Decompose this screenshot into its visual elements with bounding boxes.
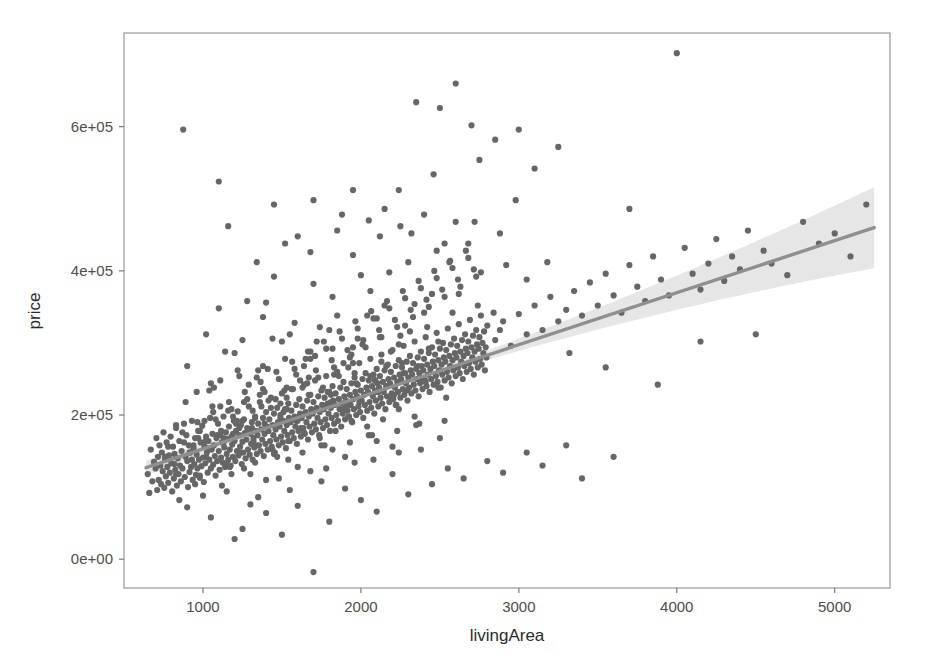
- scatter-point: [304, 398, 310, 404]
- scatter-point: [431, 268, 437, 274]
- chart-canvas: 10002000300040005000 0e+002e+054e+056e+0…: [0, 0, 942, 671]
- scatter-point: [239, 337, 245, 343]
- scatter-point: [225, 408, 231, 414]
- scatter-point: [386, 269, 392, 275]
- scatter-point: [238, 449, 244, 455]
- scatter-point: [595, 302, 601, 308]
- scatter-point: [301, 363, 307, 369]
- scatter-point: [232, 536, 238, 542]
- scatter-point: [210, 409, 216, 415]
- scatter-point: [389, 444, 395, 450]
- scatter-point: [156, 442, 162, 448]
- scatter-point: [273, 396, 279, 402]
- scatter-point: [467, 317, 473, 323]
- scatter-point: [334, 227, 340, 233]
- scatter-point: [705, 261, 711, 267]
- scatter-point: [280, 439, 286, 445]
- scatter-point: [263, 409, 269, 415]
- scatter-point: [513, 197, 519, 203]
- scatter-point: [287, 331, 293, 337]
- scatter-point: [555, 318, 561, 324]
- scatter-point: [455, 276, 461, 282]
- scatter-point: [224, 488, 230, 494]
- scatter-point: [481, 328, 487, 334]
- scatter-point: [295, 233, 301, 239]
- scatter-point: [182, 474, 188, 480]
- scatter-point: [650, 253, 656, 259]
- scatter-point: [307, 468, 313, 474]
- scatter-point: [277, 415, 283, 421]
- scatter-point: [399, 360, 405, 366]
- scatter-point: [368, 405, 374, 411]
- scatter-point: [263, 300, 269, 306]
- scatter-point: [214, 432, 220, 438]
- scatter-point: [189, 457, 195, 463]
- scatter-point: [434, 330, 440, 336]
- scatter-point: [434, 379, 440, 385]
- scatter-point: [461, 475, 467, 481]
- scatter-point: [456, 291, 462, 297]
- scatter-point: [173, 422, 179, 428]
- scatter-point: [409, 372, 415, 378]
- scatter-point: [342, 454, 348, 460]
- x-tick-label: 1000: [186, 598, 219, 615]
- scatter-point: [176, 497, 182, 503]
- scatter-point: [374, 366, 380, 372]
- scatter-point: [431, 363, 437, 369]
- scatter-point: [391, 392, 397, 398]
- scatter-point: [364, 423, 370, 429]
- scatter-point: [260, 314, 266, 320]
- scatter-point: [310, 569, 316, 575]
- scatter-point: [189, 418, 195, 424]
- scatter-point: [800, 219, 806, 225]
- scatter-point: [179, 465, 185, 471]
- scatter-point: [184, 504, 190, 510]
- scatter-point: [784, 272, 790, 278]
- scatter-point: [222, 349, 228, 355]
- scatter-point: [378, 359, 384, 365]
- scatter-point: [337, 328, 343, 334]
- scatter-point: [278, 434, 284, 440]
- scatter-point: [465, 240, 471, 246]
- scatter-point: [291, 435, 297, 441]
- scatter-point: [418, 447, 424, 453]
- scatter-point: [476, 334, 482, 340]
- scatter-point: [356, 360, 362, 366]
- scatter-point: [168, 434, 174, 440]
- scatter-point: [435, 385, 441, 391]
- scatter-point: [476, 346, 482, 352]
- scatter-point: [329, 383, 335, 389]
- scatter-point: [216, 178, 222, 184]
- scatter-point: [503, 262, 509, 268]
- scatter-point: [249, 425, 255, 431]
- scatter-point: [180, 127, 186, 133]
- scatter-point: [285, 400, 291, 406]
- scatter-point: [315, 374, 321, 380]
- scatter-point: [388, 349, 394, 355]
- scatter-point: [216, 448, 222, 454]
- scatter-point: [252, 460, 258, 466]
- scatter-point: [197, 428, 203, 434]
- scatter-point: [320, 385, 326, 391]
- scatter-point: [473, 327, 479, 333]
- scatter-point: [397, 223, 403, 229]
- scatter-point: [239, 418, 245, 424]
- scatter-point: [405, 491, 411, 497]
- scatter-point: [761, 248, 767, 254]
- scatter-point: [408, 230, 414, 236]
- scatter-point: [421, 310, 427, 316]
- scatter-point: [446, 259, 452, 265]
- scatter-point: [396, 449, 402, 455]
- y-tick-label: 6e+05: [71, 118, 113, 135]
- scatter-point: [367, 288, 373, 294]
- scatter-point: [459, 337, 465, 343]
- scatter-point: [288, 386, 294, 392]
- scatter-point: [213, 416, 219, 422]
- scatter-point: [401, 370, 407, 376]
- scatter-point: [587, 279, 593, 285]
- x-tick-label: 5000: [818, 598, 851, 615]
- scatter-point: [370, 457, 376, 463]
- scatter-point: [225, 223, 231, 229]
- scatter-point: [350, 360, 356, 366]
- scatter-point: [337, 385, 343, 391]
